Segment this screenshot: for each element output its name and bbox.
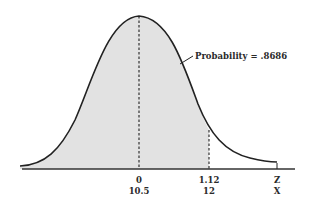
annotation-leader-line [180, 56, 193, 64]
z-axis-label: Z [274, 175, 280, 185]
z-cutoff-label: 1.12 [199, 175, 220, 185]
x-cutoff-label: 12 [203, 186, 215, 196]
shaded-probability-region [20, 16, 209, 169]
probability-annotation: Probability = .8686 [195, 51, 287, 61]
z-mean-label: 0 [136, 175, 142, 185]
x-mean-label: 10.5 [129, 186, 150, 196]
x-axis-label: X [274, 186, 281, 196]
normal-distribution-diagram: Probability = .8686 0 10.5 1.12 12 Z X [0, 0, 315, 211]
